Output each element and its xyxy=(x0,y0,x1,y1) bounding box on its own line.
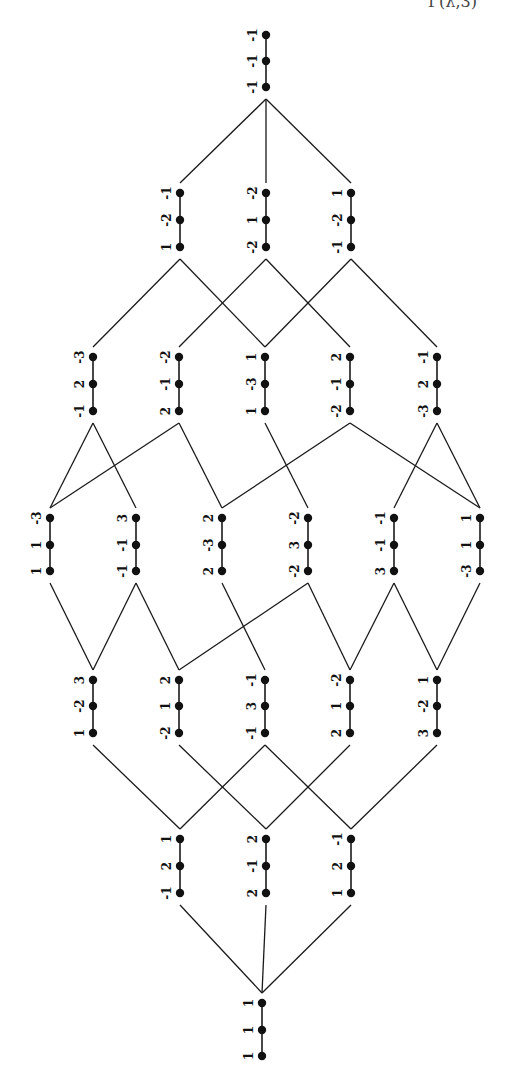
node-label: 1 xyxy=(460,541,474,549)
lattice-nodes: -1-1-1-1-21-21-21-2-1-32-1-2-121-312-1-2… xyxy=(30,28,484,1060)
node-label: -1 xyxy=(245,673,259,686)
lattice-edges xyxy=(50,99,480,993)
node-label: -3 xyxy=(73,350,87,363)
node-label: 3 xyxy=(288,541,302,549)
node-label: -2 xyxy=(288,511,302,524)
lattice-edge xyxy=(437,583,480,670)
node-label: 3 xyxy=(73,676,87,684)
node-dot xyxy=(262,189,270,197)
node-dot xyxy=(261,407,269,415)
lattice-edge xyxy=(93,259,180,347)
node-label: 2 xyxy=(202,514,216,522)
node-dot xyxy=(390,541,398,549)
node-label: -2 xyxy=(246,186,260,199)
node-dot xyxy=(258,1052,266,1060)
lattice-node: 3-21 xyxy=(73,676,97,737)
lattice-node: -1-1-1 xyxy=(246,28,270,93)
node-dot xyxy=(262,889,270,897)
node-label: 1 xyxy=(159,702,173,710)
node-dot xyxy=(346,729,354,737)
node-label: -3 xyxy=(30,511,44,524)
node-dot xyxy=(176,835,184,843)
lattice-node: -1-13 xyxy=(374,511,398,575)
node-label: 1 xyxy=(245,407,259,415)
node-label: 2 xyxy=(330,353,344,361)
node-dot xyxy=(433,353,441,361)
node-label: -2 xyxy=(73,699,87,712)
lattice-node: -23-2 xyxy=(288,511,312,577)
node-dot xyxy=(176,889,184,897)
node-label: 3 xyxy=(417,729,431,737)
lattice-edge xyxy=(351,259,437,347)
node-dot xyxy=(176,189,184,197)
node-label: 1 xyxy=(160,835,174,843)
node-dot xyxy=(258,999,266,1007)
node-dot xyxy=(175,380,183,388)
node-label: 1 xyxy=(30,567,44,575)
lattice-node: 2-12 xyxy=(246,835,270,897)
lattice-edge xyxy=(222,423,350,508)
lattice-edge xyxy=(262,905,266,993)
lattice-node: 11-3 xyxy=(460,514,484,578)
node-label: 1 xyxy=(242,1026,256,1034)
node-label: 2 xyxy=(159,676,173,684)
lattice-edge xyxy=(136,583,179,670)
node-label: 3 xyxy=(116,514,130,522)
lattice-edge xyxy=(93,745,180,829)
node-dot xyxy=(347,243,355,251)
node-label: 1 xyxy=(242,1052,256,1060)
node-label: -1 xyxy=(73,404,87,417)
node-label: -1 xyxy=(417,350,431,363)
node-dot xyxy=(346,407,354,415)
node-label: -1 xyxy=(116,538,130,551)
node-dot xyxy=(390,567,398,575)
node-label: 2 xyxy=(331,862,345,870)
node-dot xyxy=(261,380,269,388)
node-dot xyxy=(261,353,269,361)
node-dot xyxy=(346,380,354,388)
lattice-node: 3-1-1 xyxy=(116,514,140,578)
node-label: -1 xyxy=(160,186,174,199)
node-label: 1 xyxy=(331,889,345,897)
node-label: -2 xyxy=(159,350,173,363)
lattice-node: 2-32 xyxy=(202,514,226,575)
node-dot xyxy=(218,514,226,522)
lattice-edge xyxy=(308,583,350,670)
lattice-node: 12-1 xyxy=(160,835,184,900)
node-label: 1 xyxy=(160,243,174,251)
node-label: 1 xyxy=(245,353,259,361)
node-dot xyxy=(89,407,97,415)
node-label: 1 xyxy=(242,999,256,1007)
node-dot xyxy=(218,567,226,575)
node-dot xyxy=(176,862,184,870)
node-dot xyxy=(89,353,97,361)
node-dot xyxy=(258,1026,266,1034)
node-dot xyxy=(175,702,183,710)
lattice-edge xyxy=(350,583,394,670)
node-label: -3 xyxy=(460,564,474,577)
node-dot xyxy=(433,407,441,415)
node-dot xyxy=(89,676,97,684)
node-dot xyxy=(433,380,441,388)
node-label: 1 xyxy=(73,729,87,737)
node-dot xyxy=(262,57,270,65)
node-dot xyxy=(261,676,269,684)
node-label: 1 xyxy=(330,702,344,710)
lattice-node: 2-1-2 xyxy=(330,353,354,418)
node-label: 3 xyxy=(374,567,388,575)
node-label: -1 xyxy=(331,240,345,253)
lattice-node: -12-3 xyxy=(417,350,441,417)
node-label: -2 xyxy=(159,726,173,739)
node-label: -1 xyxy=(245,726,259,739)
node-label: -1 xyxy=(246,859,260,872)
lattice-node: -13-1 xyxy=(245,673,269,739)
lattice-node: 111 xyxy=(242,999,266,1060)
node-dot xyxy=(46,541,54,549)
lattice-edge xyxy=(437,423,480,508)
node-label: -2 xyxy=(330,673,344,686)
node-label: -1 xyxy=(374,538,388,551)
lattice-edge xyxy=(180,99,266,183)
node-dot xyxy=(346,702,354,710)
lattice-edge xyxy=(179,583,308,670)
lattice-edge xyxy=(93,583,136,670)
